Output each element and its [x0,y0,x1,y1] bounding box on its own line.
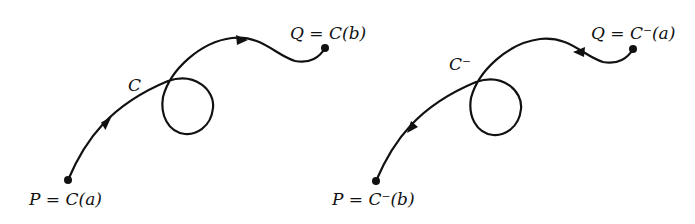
right-figure: C⁻ P = C⁻(b) Q = C⁻(a) [331,23,675,209]
curve-label-c-minus: C⁻ [449,54,471,74]
point-p [64,176,72,184]
label-q: Q = C(b) [290,23,366,43]
arrow-forward-upper [236,35,248,45]
label-p-right: P = C⁻(b) [331,189,415,209]
left-figure: C P = C(a) Q = C(b) [28,23,366,209]
diagram-canvas: C P = C(a) Q = C(b) C⁻ P = C⁻(b) Q = C⁻(… [0,0,695,224]
arrow-forward-lower [100,116,111,131]
point-q [321,44,329,52]
label-p: P = C(a) [28,189,102,209]
label-q-right: Q = C⁻(a) [591,23,675,43]
curve-c [68,38,325,180]
curve-c-minus [376,39,633,181]
point-p-right [372,177,380,185]
curve-label-c: C [128,75,141,95]
point-q-right [629,45,637,53]
